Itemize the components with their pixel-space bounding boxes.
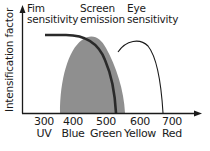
eye-sensitivity-label: Eye sensitivity	[127, 3, 178, 25]
y-axis-arrow-icon	[20, 5, 26, 13]
screen-label-line2: emission	[80, 14, 125, 25]
eye-label-line2: sensitivity	[127, 14, 178, 25]
screen-emission-label: Screen emission	[80, 3, 125, 25]
eye-sensitivity-curve	[118, 41, 163, 113]
y-axis-label: Intensification factor	[3, 8, 15, 112]
x-tick-color-name: Red	[150, 128, 194, 140]
film-label-line2: sensitivity	[27, 14, 78, 25]
x-tick-700: 700 Red	[150, 116, 194, 140]
film-sensitivity-label: Fim sensitivity	[27, 3, 78, 25]
chart: Intensification factor Fim sensitivity S…	[0, 0, 210, 151]
x-axis-arrow-icon	[194, 111, 202, 117]
